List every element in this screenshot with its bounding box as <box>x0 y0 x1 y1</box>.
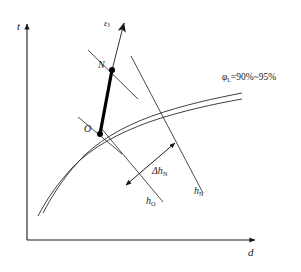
process-line-ON <box>100 70 112 134</box>
saturation-curve-upper <box>43 93 242 213</box>
point-label-N: N <box>98 60 105 70</box>
point-marker-O <box>97 131 103 137</box>
h-n-subscript: N <box>199 190 203 197</box>
delta-h-symbol: Δh <box>152 165 163 176</box>
delta-h-arrow <box>126 143 175 185</box>
figure-container: t d N O ε3 φL=90%~95% ΔhN hN hO <box>0 0 301 272</box>
epsilon-ray-label: ε3 <box>104 19 110 28</box>
epsilon-ray <box>112 23 124 70</box>
phi-subscript: L <box>227 77 231 83</box>
point-label-O: O <box>84 124 91 134</box>
construction-lines-group <box>78 50 203 202</box>
phi-curve-label: φL=90%~95% <box>222 73 276 83</box>
epsilon-subscript: 3 <box>107 22 110 28</box>
h-n-label: hN <box>194 186 203 196</box>
delta-h-subscript: N <box>163 170 167 177</box>
x-axis-label: d <box>248 247 254 258</box>
delta-h-label: ΔhN <box>152 166 167 176</box>
diagram-canvas <box>0 0 301 272</box>
h-o-subscript: O <box>151 200 155 207</box>
y-axis-label: t <box>17 21 20 32</box>
isotherm-through-N <box>88 50 138 99</box>
saturation-curve-lower <box>38 99 242 216</box>
axes-group <box>27 24 255 240</box>
humidity-curves-group <box>38 93 242 216</box>
point-marker-N <box>109 67 115 73</box>
h-o-label: hO <box>146 196 155 206</box>
phi-value: =90%~95% <box>231 72 276 82</box>
